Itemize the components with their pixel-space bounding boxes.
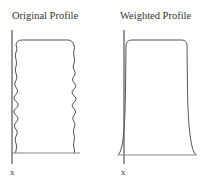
original-profile-panel: Original Profile x	[10, 10, 80, 177]
weighted-profile-outline	[118, 40, 196, 155]
weighted-profile-panel: Weighted Profile x	[118, 10, 197, 177]
weighted-x-axis-label: x	[121, 167, 126, 177]
original-x-axis-label: x	[10, 167, 15, 177]
original-profile-left-edge	[14, 46, 18, 153]
original-profile-top-edge	[16, 40, 74, 46]
original-profile-right-edge	[72, 46, 76, 153]
profile-diagram: Original Profile x Weighted Profile x	[0, 0, 207, 181]
weighted-profile-title: Weighted Profile	[120, 10, 192, 21]
original-profile-title: Original Profile	[12, 10, 79, 21]
